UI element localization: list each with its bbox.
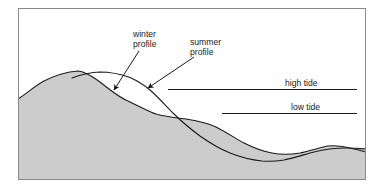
winter-profile-label-line1: winter	[132, 29, 156, 39]
summer-profile-label-line1: summer	[190, 37, 221, 47]
high-tide-label: high tide	[285, 78, 318, 88]
beach-profile-diagram: high tide low tide winter profile summer…	[0, 0, 384, 193]
summer-profile-label-line2: profile	[190, 47, 214, 57]
winter-profile-label-line2: profile	[133, 39, 157, 49]
low-tide-label: low tide	[291, 102, 320, 112]
beach-profile-figure: high tide low tide winter profile summer…	[0, 0, 384, 193]
